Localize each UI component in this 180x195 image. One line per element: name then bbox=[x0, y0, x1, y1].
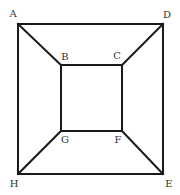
vertex-label-a: A bbox=[8, 8, 17, 19]
edges-group bbox=[18, 24, 163, 174]
vertex-label-d: D bbox=[163, 9, 171, 20]
edge-hg bbox=[18, 131, 61, 174]
vertex-label-h: H bbox=[10, 178, 19, 189]
edge-dc bbox=[122, 24, 163, 65]
vertex-label-f: F bbox=[115, 134, 122, 145]
edge-ef bbox=[122, 131, 163, 174]
vertex-label-b: B bbox=[61, 51, 68, 62]
vertex-label-c: C bbox=[113, 50, 121, 61]
vertex-label-e: E bbox=[165, 178, 172, 189]
labels-group: ADEHBCFG bbox=[8, 8, 172, 189]
edge-ab bbox=[18, 24, 61, 65]
vertex-label-g: G bbox=[61, 134, 69, 145]
square-frame-diagram: ADEHBCFG bbox=[0, 0, 180, 195]
